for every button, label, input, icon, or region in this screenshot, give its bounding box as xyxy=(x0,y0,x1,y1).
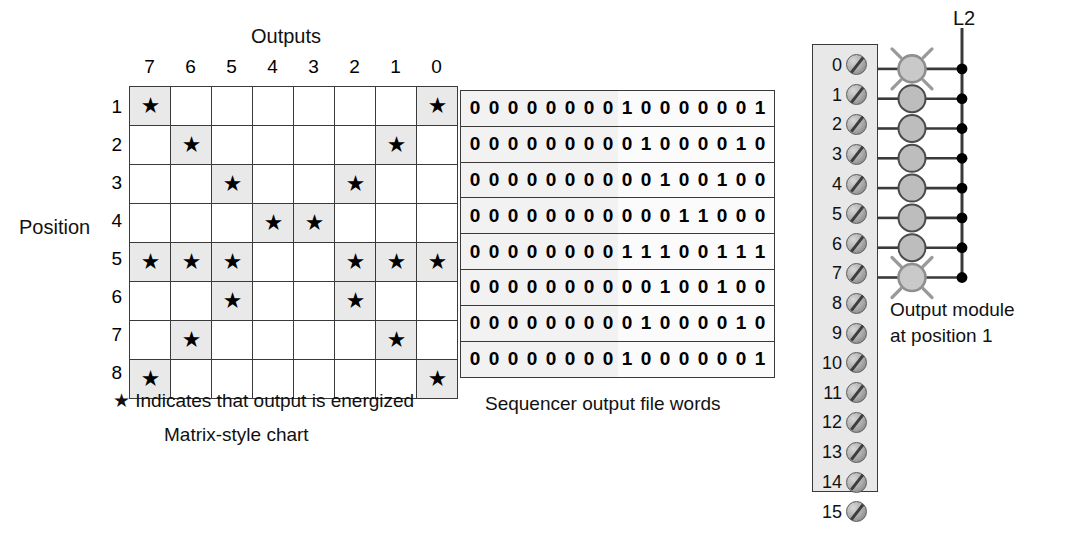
terminal-8[interactable]: 8 xyxy=(812,288,878,318)
matrix-row-header-6: 6 xyxy=(100,286,122,308)
bit: 0 xyxy=(523,241,541,263)
energized-star-icon: ★ xyxy=(417,243,457,281)
energized-star-icon: ★ xyxy=(212,282,252,320)
energized-star-icon: ★ xyxy=(212,165,252,203)
bit: 0 xyxy=(637,348,655,370)
terminal-number-label: 1 xyxy=(812,86,846,104)
energized-star-icon: ★ xyxy=(417,360,457,398)
terminal-11[interactable]: 11 xyxy=(812,378,878,408)
bit: 0 xyxy=(466,97,484,119)
terminal-9[interactable]: 9 xyxy=(812,318,878,348)
bit: 0 xyxy=(542,312,560,334)
matrix-cell-p7-o0 xyxy=(417,321,458,360)
matrix-cell-p1-o6 xyxy=(171,87,212,126)
bit: 0 xyxy=(694,312,712,334)
bit: 0 xyxy=(485,241,503,263)
bit: 0 xyxy=(485,205,503,227)
bit: 0 xyxy=(599,133,617,155)
matrix-cell-p6-o5: ★ xyxy=(212,282,253,321)
bit: 1 xyxy=(656,241,674,263)
matrix-cell-p4-o6 xyxy=(171,204,212,243)
bit: 0 xyxy=(542,133,560,155)
bit: 0 xyxy=(542,241,560,263)
matrix-cell-p4-o5 xyxy=(212,204,253,243)
terminal-13[interactable]: 13 xyxy=(812,437,878,467)
bit: 0 xyxy=(580,276,598,298)
rail-junction-dot-0 xyxy=(957,64,968,75)
outputs-title: Outputs xyxy=(251,26,321,46)
bit: 0 xyxy=(580,348,598,370)
bit: 0 xyxy=(599,276,617,298)
sequencer-caption: Sequencer output file words xyxy=(485,394,721,413)
bit: 1 xyxy=(656,169,674,191)
matrix-col-header-2: 2 xyxy=(334,56,375,78)
bit: 0 xyxy=(485,133,503,155)
matrix-cell-p2-o0 xyxy=(417,126,458,165)
terminal-4[interactable]: 4 xyxy=(812,169,878,199)
lamp-off-icon-3 xyxy=(899,145,926,172)
bit: 0 xyxy=(466,205,484,227)
bit: 0 xyxy=(561,97,579,119)
matrix-cell-p6-o4 xyxy=(253,282,294,321)
terminal-5[interactable]: 5 xyxy=(812,199,878,229)
terminal-7[interactable]: 7 xyxy=(812,259,878,289)
bit: 0 xyxy=(599,205,617,227)
terminal-2[interactable]: 2 xyxy=(812,110,878,140)
matrix-cell-p8-o0: ★ xyxy=(417,360,458,399)
screw-terminal-icon xyxy=(846,352,867,373)
terminal-12[interactable]: 12 xyxy=(812,408,878,438)
bit: 0 xyxy=(656,205,674,227)
bit: 0 xyxy=(751,205,769,227)
bit: 1 xyxy=(618,97,636,119)
matrix-cell-p3-o7 xyxy=(130,165,171,204)
matrix-cell-p1-o5 xyxy=(212,87,253,126)
bit: 0 xyxy=(523,169,541,191)
matrix-row-header-3: 3 xyxy=(100,172,122,194)
screw-terminal-icon xyxy=(846,472,867,493)
matrix-row: ★★★★★★ xyxy=(130,243,458,282)
screw-terminal-icon xyxy=(846,114,867,135)
terminal-number-label: 4 xyxy=(812,175,846,193)
terminal-15[interactable]: 15 xyxy=(812,497,878,527)
bit: 0 xyxy=(675,133,693,155)
sequencer-output-file: 0000000010000001000000000100001000000000… xyxy=(460,90,775,378)
matrix-col-header-7: 7 xyxy=(129,56,170,78)
bit: 0 xyxy=(485,348,503,370)
lamp-ray-0-1 xyxy=(923,49,932,58)
terminal-3[interactable]: 3 xyxy=(812,139,878,169)
sequencer-word-row: 0000000010000001 xyxy=(461,342,774,378)
matrix-cell-p4-o3: ★ xyxy=(294,204,335,243)
bit: 0 xyxy=(542,348,560,370)
bit: 0 xyxy=(637,276,655,298)
matrix-style-chart: ★★★★★★★★★★★★★★★★★★★★ xyxy=(129,86,458,399)
matrix-cell-p3-o4 xyxy=(253,165,294,204)
matrix-cell-p2-o3 xyxy=(294,126,335,165)
terminal-10[interactable]: 10 xyxy=(812,348,878,378)
screw-terminal-icon xyxy=(846,144,867,165)
terminal-0[interactable]: 0 xyxy=(812,50,878,80)
terminal-1[interactable]: 1 xyxy=(812,80,878,110)
matrix-cell-p3-o1 xyxy=(376,165,417,204)
sequencer-word-row: 0000000010000001 xyxy=(461,91,774,127)
matrix-caption: Matrix-style chart xyxy=(164,425,309,444)
matrix-col-header-4: 4 xyxy=(252,56,293,78)
bit: 0 xyxy=(561,169,579,191)
bit: 0 xyxy=(751,312,769,334)
lamp-off-icon-1 xyxy=(899,85,926,112)
bit: 0 xyxy=(466,276,484,298)
bit: 0 xyxy=(637,97,655,119)
matrix-col-header-3: 3 xyxy=(293,56,334,78)
energized-star-icon: ★ xyxy=(171,243,211,281)
bit: 0 xyxy=(675,169,693,191)
bit: 0 xyxy=(694,133,712,155)
matrix-cell-p6-o1 xyxy=(376,282,417,321)
terminal-6[interactable]: 6 xyxy=(812,229,878,259)
terminal-14[interactable]: 14 xyxy=(812,467,878,497)
matrix-cell-p1-o2 xyxy=(335,87,376,126)
bit: 0 xyxy=(542,169,560,191)
bit: 0 xyxy=(504,169,522,191)
terminal-number-label: 0 xyxy=(812,56,846,74)
sequencer-word-bits: 0000000001000010 xyxy=(461,312,774,334)
matrix-row: ★★ xyxy=(130,282,458,321)
bit: 0 xyxy=(713,348,731,370)
